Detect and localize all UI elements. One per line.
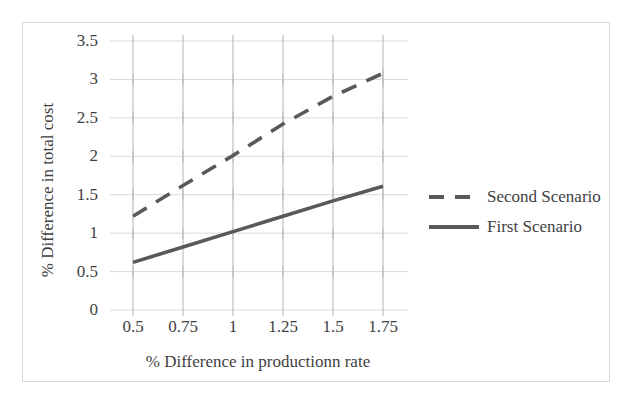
legend-item-first-scenario[interactable]: First Scenario [428, 212, 608, 242]
chart-figure: 3.532.521.510.50 0.50.7511.251.51.75 % D… [0, 0, 637, 402]
x-axis-title: % Difference in productionn rate [88, 352, 428, 372]
y-tick-label: 1 [52, 223, 98, 242]
dashed-line-icon [428, 190, 480, 204]
legend-label-first-scenario: First Scenario [487, 217, 582, 237]
legend-label-second-scenario: Second Scenario [487, 187, 601, 207]
y-tick-label: 3.5 [52, 31, 98, 50]
legend-item-second-scenario[interactable]: Second Scenario [428, 182, 608, 212]
y-tick-label: 2.5 [52, 108, 98, 127]
y-tick-label: 1.5 [52, 185, 98, 204]
y-tick-label: 3 [52, 69, 98, 88]
y-tick-label: 2 [52, 146, 98, 165]
y-tick-label: 0.5 [52, 262, 98, 281]
x-tick-label: 1.75 [353, 317, 413, 336]
solid-line-icon [428, 220, 480, 234]
y-tick-label: 0 [52, 300, 98, 319]
chart-legend: Second Scenario First Scenario [428, 182, 608, 242]
y-axis-title: % Difference in total cost [38, 80, 58, 300]
